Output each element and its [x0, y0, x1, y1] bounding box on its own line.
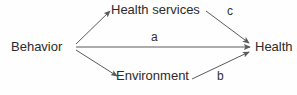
node-health: Health [255, 40, 293, 54]
edge-behavior-to-health-services [76, 11, 110, 44]
node-environment: Environment [116, 69, 189, 83]
node-behavior: Behavior [11, 40, 62, 54]
edge-behavior-to-environment [76, 50, 117, 76]
path-label-c: c [227, 5, 233, 18]
path-diagram: Behavior Health services Environment Hea… [0, 0, 297, 95]
path-label-a: a [151, 31, 158, 44]
node-health-services: Health services [111, 3, 200, 17]
path-label-b: b [217, 70, 224, 83]
